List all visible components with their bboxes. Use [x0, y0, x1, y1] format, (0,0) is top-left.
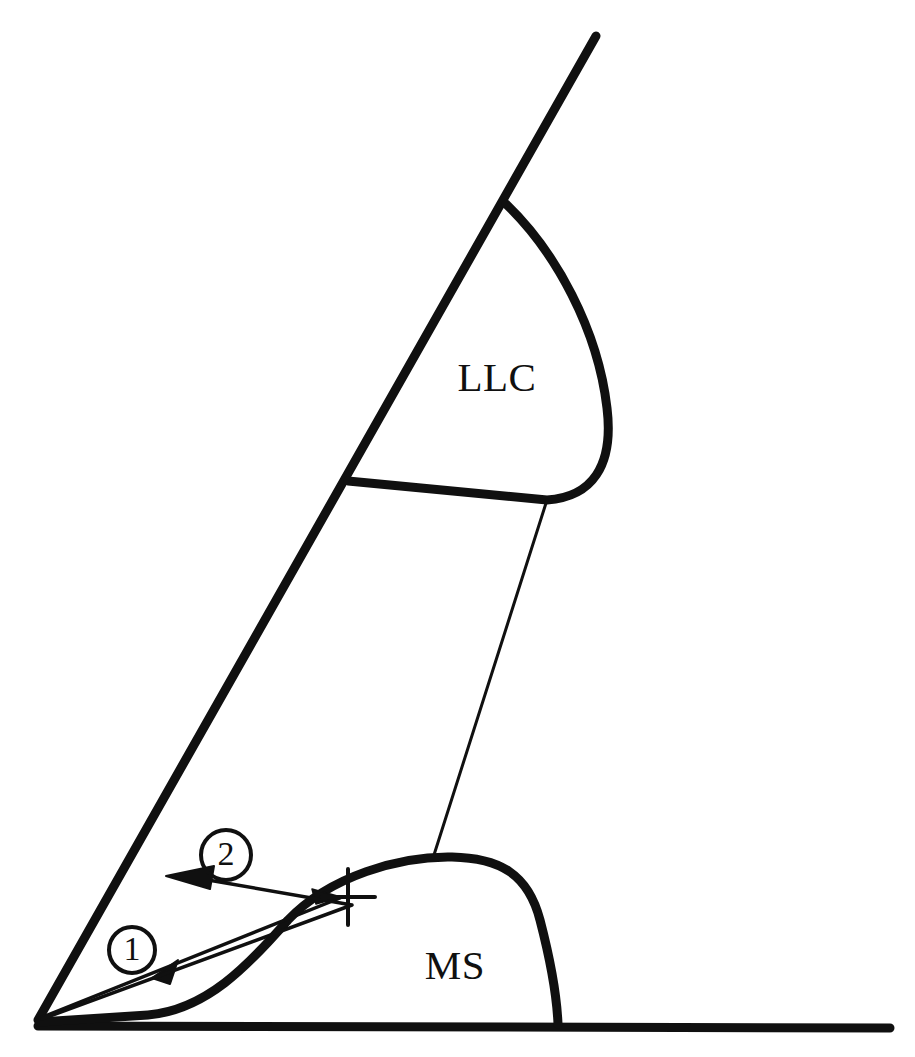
figure-root: 1 2 LLC MS [0, 0, 915, 1057]
region-label-llc: LLC [458, 354, 537, 400]
callout-1-number: 1 [124, 930, 141, 967]
llc-ms-tie-line [433, 500, 547, 858]
region-label-ms: MS [425, 942, 485, 988]
baseline-axis [38, 1026, 890, 1028]
cross-marker-icon [321, 869, 375, 925]
callout-2-number: 2 [218, 835, 235, 872]
phase-diagram-svg: 1 2 LLC MS [0, 0, 915, 1057]
